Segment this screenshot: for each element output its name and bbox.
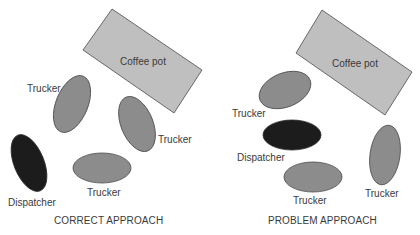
dispatcher-shape	[263, 120, 321, 150]
trucker-label: Trucker	[87, 187, 121, 198]
trucker-shape	[111, 91, 162, 157]
trucker-label: Trucker	[27, 83, 61, 94]
panel-correct-approach: Coffee pot Trucker Trucker Trucker Dispa…	[4, 9, 202, 226]
dispatcher-shape	[4, 130, 54, 197]
dispatcher-label: Dispatcher	[237, 152, 285, 163]
dispatcher-label: Dispatcher	[8, 197, 56, 208]
trucker-label: Trucker	[365, 188, 399, 199]
seating-diagram: Coffee pot Trucker Trucker Trucker Dispa…	[0, 0, 420, 235]
coffee-pot-label: Coffee pot	[332, 58, 378, 69]
trucker-shape	[284, 162, 342, 192]
trucker-label: Trucker	[158, 134, 192, 145]
coffee-pot-label: Coffee pot	[120, 56, 166, 67]
trucker-shape	[73, 153, 131, 183]
panel-caption: CORRECT APPROACH	[54, 215, 163, 226]
trucker-label: Trucker	[293, 195, 327, 206]
panel-caption: PROBLEM APPROACH	[268, 215, 377, 226]
trucker-shape	[46, 70, 98, 138]
trucker-shape	[366, 123, 404, 187]
panel-problem-approach: Coffee pot Trucker Dispatcher Trucker Tr…	[232, 10, 412, 226]
trucker-label: Trucker	[232, 108, 266, 119]
